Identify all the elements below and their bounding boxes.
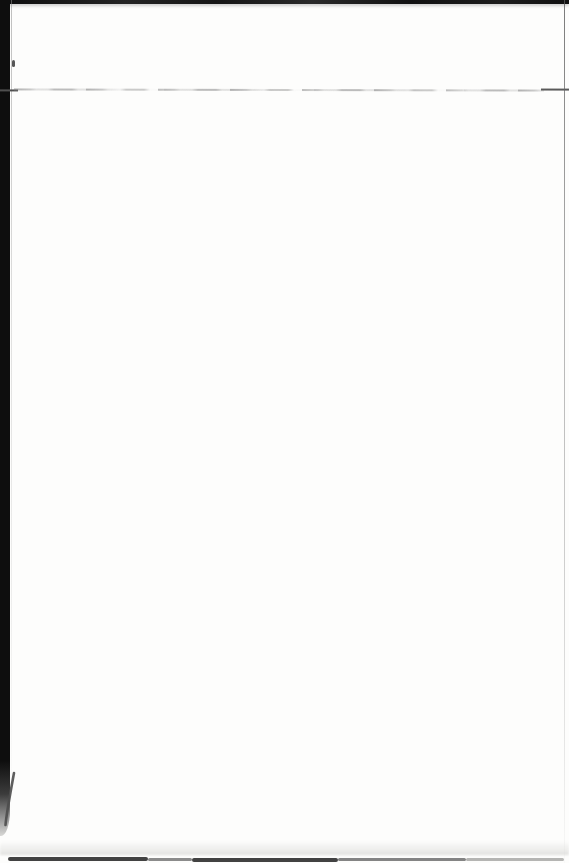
crease-line-dashes xyxy=(14,88,544,91)
bottom-shadow-segment xyxy=(466,858,564,861)
page-right-edge-line xyxy=(564,0,565,863)
bottom-shadow-segment xyxy=(8,857,148,861)
faint-crease-line xyxy=(0,87,569,91)
page-left-edge-line xyxy=(11,0,12,820)
scan-top-edge-shadow xyxy=(0,0,569,4)
bottom-shadow-segment xyxy=(338,858,466,861)
bottom-shadow-segment xyxy=(192,858,338,862)
scan-left-gutter-bar xyxy=(0,0,10,836)
scanned-page xyxy=(0,0,569,863)
bottom-edge-smudge xyxy=(0,841,569,855)
scan-bottom-edge-shadow xyxy=(0,854,569,863)
bottom-shadow-segment xyxy=(148,858,192,861)
ink-speck xyxy=(12,60,15,67)
